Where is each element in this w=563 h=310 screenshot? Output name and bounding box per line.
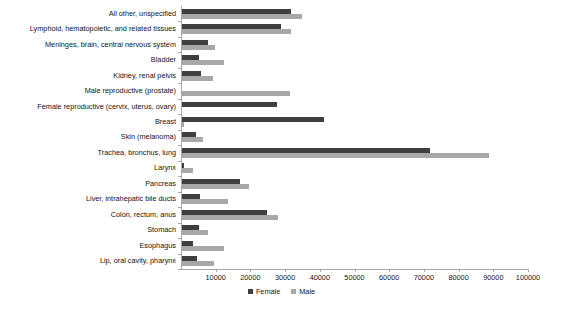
category-row: Esophagus — [181, 238, 528, 253]
plot-area: All other, unspecifiedLymphoid, hematopo… — [181, 6, 528, 269]
category-label: Larynx — [154, 164, 176, 171]
bar-male — [182, 122, 184, 127]
category-label: Pancreas — [145, 180, 176, 187]
category-label: Esophagus — [139, 242, 176, 249]
legend-label: Male — [299, 287, 315, 296]
x-axis-tick-label: 20000 — [240, 274, 260, 281]
category-row: Bladder — [181, 52, 528, 67]
legend-item-male[interactable]: Male — [291, 287, 315, 296]
category-row: Male reproductive (prostate) — [181, 83, 528, 98]
x-axis-tick-label: 90000 — [483, 274, 503, 281]
category-row: Skin (melanoma) — [181, 130, 528, 145]
x-axis-tick — [355, 269, 356, 272]
x-axis-tick — [528, 269, 529, 272]
x-axis-tick — [250, 269, 251, 272]
x-axis-tick — [216, 269, 217, 272]
x-axis-tick — [389, 269, 390, 272]
category-label: Bladder — [151, 56, 176, 63]
category-label: Colon, rectum, anus — [111, 211, 176, 218]
bar-male — [182, 45, 215, 50]
bar-male — [182, 137, 203, 142]
x-axis-tick-label: 100000 — [516, 274, 540, 281]
bar-male — [182, 14, 302, 19]
bar-male — [182, 91, 290, 96]
bar-male — [182, 76, 213, 81]
category-row: Trachea, bronchus, lung — [181, 145, 528, 160]
category-label: Lymphoid, hematopoietic, and related tis… — [30, 25, 176, 32]
bar-male — [182, 168, 193, 173]
category-row: Meninges, brain, central nervous system — [181, 37, 528, 52]
x-axis-tick-label: 40000 — [310, 274, 330, 281]
x-axis-tick-label: 80000 — [448, 274, 468, 281]
category-label: Breast — [155, 118, 176, 125]
category-row: All other, unspecified — [181, 6, 528, 21]
bar-male — [182, 261, 214, 266]
bar-male — [182, 29, 291, 34]
x-axis-tick — [320, 269, 321, 272]
x-axis-tick — [459, 269, 460, 272]
category-label: Meninges, brain, central nervous system — [45, 41, 176, 48]
legend-label: Female — [256, 287, 280, 296]
bar-male — [182, 60, 224, 65]
category-label: Stomach — [147, 226, 176, 233]
legend-item-female[interactable]: Female — [248, 287, 280, 296]
x-axis-tick — [424, 269, 425, 272]
bar-male — [182, 246, 224, 251]
bar-female — [182, 117, 324, 122]
bar-male — [182, 215, 278, 220]
x-axis-tick — [493, 269, 494, 272]
bar-male — [182, 199, 228, 204]
category-row: Liver, intrahepatic bile ducts — [181, 192, 528, 207]
category-row: Pancreas — [181, 176, 528, 191]
category-label: Lip, oral cavity, pharynx — [100, 257, 176, 264]
bar-male — [182, 230, 208, 235]
bar-female — [182, 102, 277, 107]
x-axis: 1000020000300004000050000600007000080000… — [181, 269, 528, 270]
x-axis-tick-label: 60000 — [379, 274, 399, 281]
category-row: Breast — [181, 114, 528, 129]
category-row: Kidney, renal pelvis — [181, 68, 528, 83]
bar-male — [182, 153, 489, 158]
square-swatch — [291, 289, 296, 294]
category-row: Lymphoid, hematopoietic, and related tis… — [181, 21, 528, 36]
cancer-mortality-bar-chart: All other, unspecifiedLymphoid, hematopo… — [0, 0, 563, 310]
category-row: Female reproductive (cervix, uterus, ova… — [181, 99, 528, 114]
category-label: Trachea, bronchus, lung — [98, 149, 176, 156]
x-axis-tick-label: 70000 — [414, 274, 434, 281]
x-axis-tick-label: 30000 — [275, 274, 295, 281]
category-row: Lip, oral cavity, pharynx — [181, 254, 528, 269]
category-label: Kidney, renal pelvis — [113, 72, 176, 79]
chart-legend: FemaleMale — [0, 287, 563, 296]
category-row: Stomach — [181, 223, 528, 238]
category-label: Skin (melanoma) — [121, 133, 176, 140]
category-label: All other, unspecified — [109, 10, 176, 17]
square-swatch — [248, 289, 253, 294]
category-label: Male reproductive (prostate) — [85, 87, 176, 94]
x-axis-tick — [285, 269, 286, 272]
category-row: Colon, rectum, anus — [181, 207, 528, 222]
category-label: Female reproductive (cervix, uterus, ova… — [37, 103, 176, 110]
bar-male — [182, 184, 249, 189]
category-label: Liver, intrahepatic bile ducts — [86, 195, 176, 202]
x-axis-tick-label: 10000 — [206, 274, 226, 281]
category-row: Larynx — [181, 161, 528, 176]
x-axis-tick-label: 50000 — [344, 274, 364, 281]
